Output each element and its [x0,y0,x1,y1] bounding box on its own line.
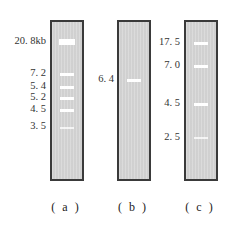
band-c-7-0 [194,65,208,68]
size-label-a-20-8kb: 20. 8kb [2,35,46,47]
band-c-2-5 [194,137,208,139]
band-c-17-5 [194,42,208,45]
size-label-c-17-5: 17. 5 [136,36,180,48]
band-a-3-5 [60,127,74,129]
size-label-a-4-5: 4. 5 [2,103,46,115]
lane-caption-b: ( b ) [113,200,153,215]
size-label-c-2-5: 2. 5 [136,131,180,143]
band-a-4-5 [60,109,74,112]
size-label-a-7-2: 7. 2 [2,67,46,79]
size-label-b-6-4: 6. 4 [70,73,114,85]
size-label-c-4-5: 4. 5 [136,97,180,109]
band-c-4-5 [194,103,208,106]
band-a-5-2 [60,97,74,100]
size-label-c-7-0: 7. 0 [136,59,180,71]
band-a-20-8kb [59,39,75,45]
lane-caption-a: ( a ) [46,200,86,215]
gel-lane-c [184,20,218,181]
gel-lane-a [50,20,84,181]
size-label-a-5-2: 5. 2 [2,91,46,103]
size-label-a-3-5: 3. 5 [2,120,46,132]
band-a-5-4 [60,86,74,89]
lane-caption-c: ( c ) [180,200,220,215]
band-b-6-4 [127,79,141,82]
